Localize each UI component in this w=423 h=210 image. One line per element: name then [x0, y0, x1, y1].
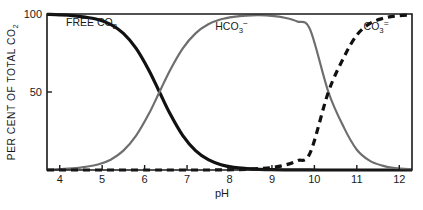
series-label-free-co2: FREE CO2 — [66, 16, 117, 31]
x-tick-label: 6 — [142, 173, 148, 185]
x-tick-label: 4 — [57, 173, 63, 185]
x-tick-label: 5 — [99, 173, 105, 185]
series-label-hco3: HCO3− — [215, 18, 248, 35]
x-tick-label: 11 — [351, 173, 362, 185]
series-annotations: FREE CO2HCO3−CO3= — [66, 16, 389, 34]
y-tick-label: 100 — [24, 8, 42, 20]
chart-canvas: 456789101112 50100 FREE CO2HCO3−CO3= pH … — [0, 0, 423, 210]
y-axis-title: PER CENT OF TOTAL CO2 — [6, 24, 20, 160]
curve-group — [47, 14, 412, 170]
x-tick-label: 7 — [184, 173, 190, 185]
x-axis-title: pH — [215, 187, 229, 199]
plot-frame — [47, 14, 412, 170]
curve-free-co2 — [47, 14, 412, 170]
x-tick-label: 9 — [269, 173, 275, 185]
y-tick-label: 50 — [30, 86, 42, 98]
carbonate-speciation-chart: 456789101112 50100 FREE CO2HCO3−CO3= pH … — [0, 0, 423, 210]
series-label-co3: CO3= — [364, 18, 389, 35]
x-tick-label: 8 — [226, 173, 232, 185]
y-axis-title-text: PER CENT OF TOTAL CO2 — [6, 24, 20, 160]
curve-co3 — [47, 15, 412, 170]
curve-hco3 — [47, 15, 412, 169]
x-tick-label: 12 — [393, 173, 405, 185]
x-tick-label: 10 — [308, 173, 320, 185]
axes-rect — [47, 14, 412, 170]
